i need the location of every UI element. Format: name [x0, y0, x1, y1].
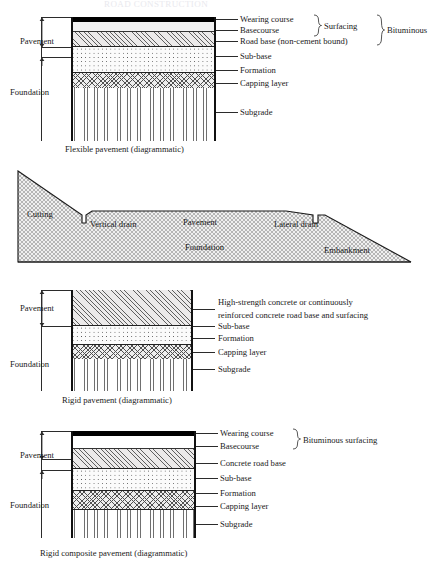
layer-subgrade [71, 510, 196, 538]
leader-concrete-road-base-surfacing [193, 309, 215, 310]
label-concrete-road-base-surfacing-line1: High-strength concrete or continuously [218, 298, 353, 307]
arrow-foundation-top [38, 470, 46, 480]
group-label-bituminous: Bituminous [387, 26, 427, 35]
leader-basecourse [196, 446, 218, 447]
leader-wearing-course [196, 433, 218, 434]
group-label-bituminous-surfacing: Bituminous surfacing [303, 436, 377, 445]
leader-subgrade [193, 369, 215, 370]
brace-bituminous [376, 14, 385, 48]
label-pavement: Pavement [183, 218, 217, 227]
leader-road-base [216, 41, 238, 42]
layer-subgrade [71, 359, 193, 391]
leader-subgrade [216, 112, 238, 113]
layer-basecourse [71, 436, 196, 449]
label-subgrade: Subgrade [218, 365, 250, 374]
label-embankment: Embankment [324, 246, 370, 255]
label-wearing-course: Wearing course [240, 15, 293, 24]
layer-sub-base [71, 469, 196, 491]
figure-rigid-pavement: Pavement Foundation High-strength concre… [0, 275, 429, 405]
stack-right-edge [214, 17, 216, 141]
label-sub-base: Sub-base [240, 52, 272, 61]
layer-road-base [71, 32, 216, 47]
leader-formation [216, 70, 238, 71]
layer-basecourse [71, 22, 216, 32]
leader-basecourse [216, 30, 238, 31]
bracket-label-pavement: Pavement [20, 37, 54, 46]
caption-flexible-pavement: Flexible pavement (diagrammatic) [65, 145, 184, 154]
bracket-label-foundation: Foundation [10, 88, 49, 97]
label-sub-base: Sub-base [220, 474, 252, 483]
layer-subgrade [71, 88, 216, 141]
layer-stack-rigid-composite [71, 431, 196, 538]
bracket-label-pavement: Pavement [20, 304, 54, 313]
layer-stack-flexible [71, 17, 216, 141]
leader-sub-base [193, 326, 215, 327]
bracket-label-pavement: Pavement [20, 451, 54, 460]
label-lateral-drain: Lateral drain [274, 220, 318, 229]
stack-right-edge [191, 290, 193, 391]
label-formation: Formation [220, 489, 256, 498]
label-formation: Formation [240, 66, 276, 75]
layer-stack-rigid [71, 290, 193, 391]
label-formation: Formation [218, 334, 254, 343]
stack-left-edge [71, 17, 73, 141]
layer-capping-layer [71, 491, 196, 510]
label-wearing-course: Wearing course [220, 429, 273, 438]
stack-right-edge [194, 431, 196, 538]
label-basecourse: Basecourse [240, 26, 279, 35]
bracket-label-foundation: Foundation [10, 501, 49, 510]
leader-sub-base [196, 478, 218, 479]
layer-sub-base [71, 326, 193, 345]
layer-capping-layer [71, 345, 193, 359]
layer-sub-base [71, 47, 216, 73]
leader-concrete-road-base [196, 463, 218, 464]
label-vertical-drain: Vertical drain [90, 220, 137, 229]
label-cutting: Cutting [27, 210, 53, 219]
leader-sub-base [216, 56, 238, 57]
label-capping-layer: Capping layer [218, 348, 266, 357]
group-label-surfacing: Surfacing [324, 22, 357, 31]
stack-left-edge [71, 431, 73, 538]
label-sub-base: Sub-base [218, 322, 250, 331]
leader-formation [193, 338, 215, 339]
bracket-label-foundation: Foundation [10, 360, 49, 369]
label-basecourse: Basecourse [220, 442, 259, 451]
figure-rigid-composite-pavement: Pavement Foundation Wearing course Basec… [0, 418, 429, 567]
label-concrete-road-base-surfacing-line2: reinforced concrete road base and surfac… [218, 311, 368, 320]
label-subgrade: Subgrade [240, 108, 272, 117]
layer-concrete-road-base-surfacing [71, 290, 193, 326]
layer-capping-layer [71, 73, 216, 88]
leader-capping-layer [196, 506, 218, 507]
layer-concrete-road-base [71, 449, 196, 469]
label-road-base: Road base (non-cement bound) [240, 37, 348, 46]
label-foundation: Foundation [185, 243, 224, 252]
leader-formation [196, 493, 218, 494]
leader-capping-layer [193, 352, 215, 353]
arrow-foundation-top [38, 57, 46, 67]
leader-subgrade [196, 524, 218, 525]
label-capping-layer: Capping layer [220, 502, 268, 511]
stack-left-edge [71, 290, 73, 391]
brace-bituminous-surfacing [292, 428, 301, 452]
caption-rigid-pavement: Rigid pavement (diagrammatic) [62, 396, 172, 405]
dimension-line-foundation-vertical [41, 66, 42, 141]
label-concrete-road-base: Concrete road base [220, 459, 286, 468]
figure-road-cross-section: Cutting Vertical drain Pavement Lateral … [0, 160, 429, 275]
leader-wearing-course [216, 19, 238, 20]
label-subgrade: Subgrade [220, 520, 252, 529]
caption-rigid-composite-pavement: Rigid composite pavement (diagrammatic) [40, 549, 187, 558]
brace-surfacing [313, 14, 322, 38]
figure-flexible-pavement: Pavement Foundation Wearing course Basec… [0, 0, 429, 160]
label-capping-layer: Capping layer [240, 79, 288, 88]
leader-capping-layer [216, 83, 238, 84]
